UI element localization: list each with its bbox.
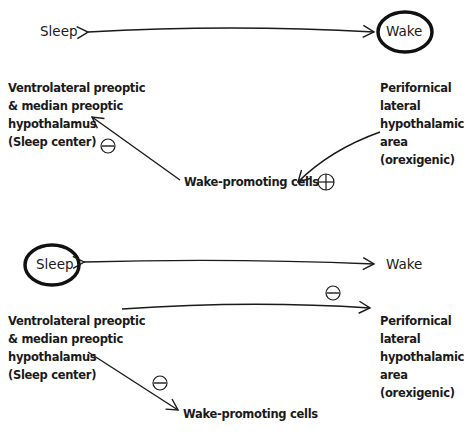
bottom-orexigenic-area-label: Perifornical lateral hypothalamic area (… [380,312,470,402]
bottom-arrow-to-orexigenic-area [122,304,370,309]
top-sleep-label: Sleep [40,22,78,40]
region-line: hypothalamus [8,348,145,366]
region-line: & median preoptic [8,330,145,348]
region-line: hypothalamic [380,348,470,366]
top-sleep-center-label: Ventrolateral preoptic & median preoptic… [8,79,145,151]
top-sleep-wake-arrow [88,28,374,32]
bottom-wake-promoting-cells-label: Wake-promoting cells [183,405,318,423]
region-line: Perifornical [380,312,470,330]
region-line: hypothalamus [8,115,145,133]
bottom-sleep-center-label: Ventrolateral preoptic & median preoptic… [8,312,145,384]
bottom-sleep-label: Sleep [36,255,74,273]
region-line: area (orexigenic) [380,366,470,402]
plus-sign-icon [318,174,334,190]
region-line: (Sleep center) [8,133,145,151]
minus-sign-icon [153,376,167,390]
bottom-wake-label: Wake [386,255,422,273]
bottom-sleep-wake-arrow [84,260,374,264]
region-line: lateral [380,330,470,348]
top-wake-label: Wake [386,22,422,40]
region-line: lateral [380,97,470,115]
region-line: area (orexigenic) [380,133,470,169]
region-line: Ventrolateral preoptic [8,79,145,97]
region-line: Perifornical [380,79,470,97]
region-line: & median preoptic [8,97,145,115]
region-line: hypothalamic [380,115,470,133]
region-line: (Sleep center) [8,366,145,384]
minus-sign-icon [326,286,340,300]
top-orexigenic-area-label: Perifornical lateral hypothalamic area (… [380,79,470,169]
region-line: Ventrolateral preoptic [8,312,145,330]
top-wake-promoting-cells-label: Wake-promoting cells [184,173,319,191]
